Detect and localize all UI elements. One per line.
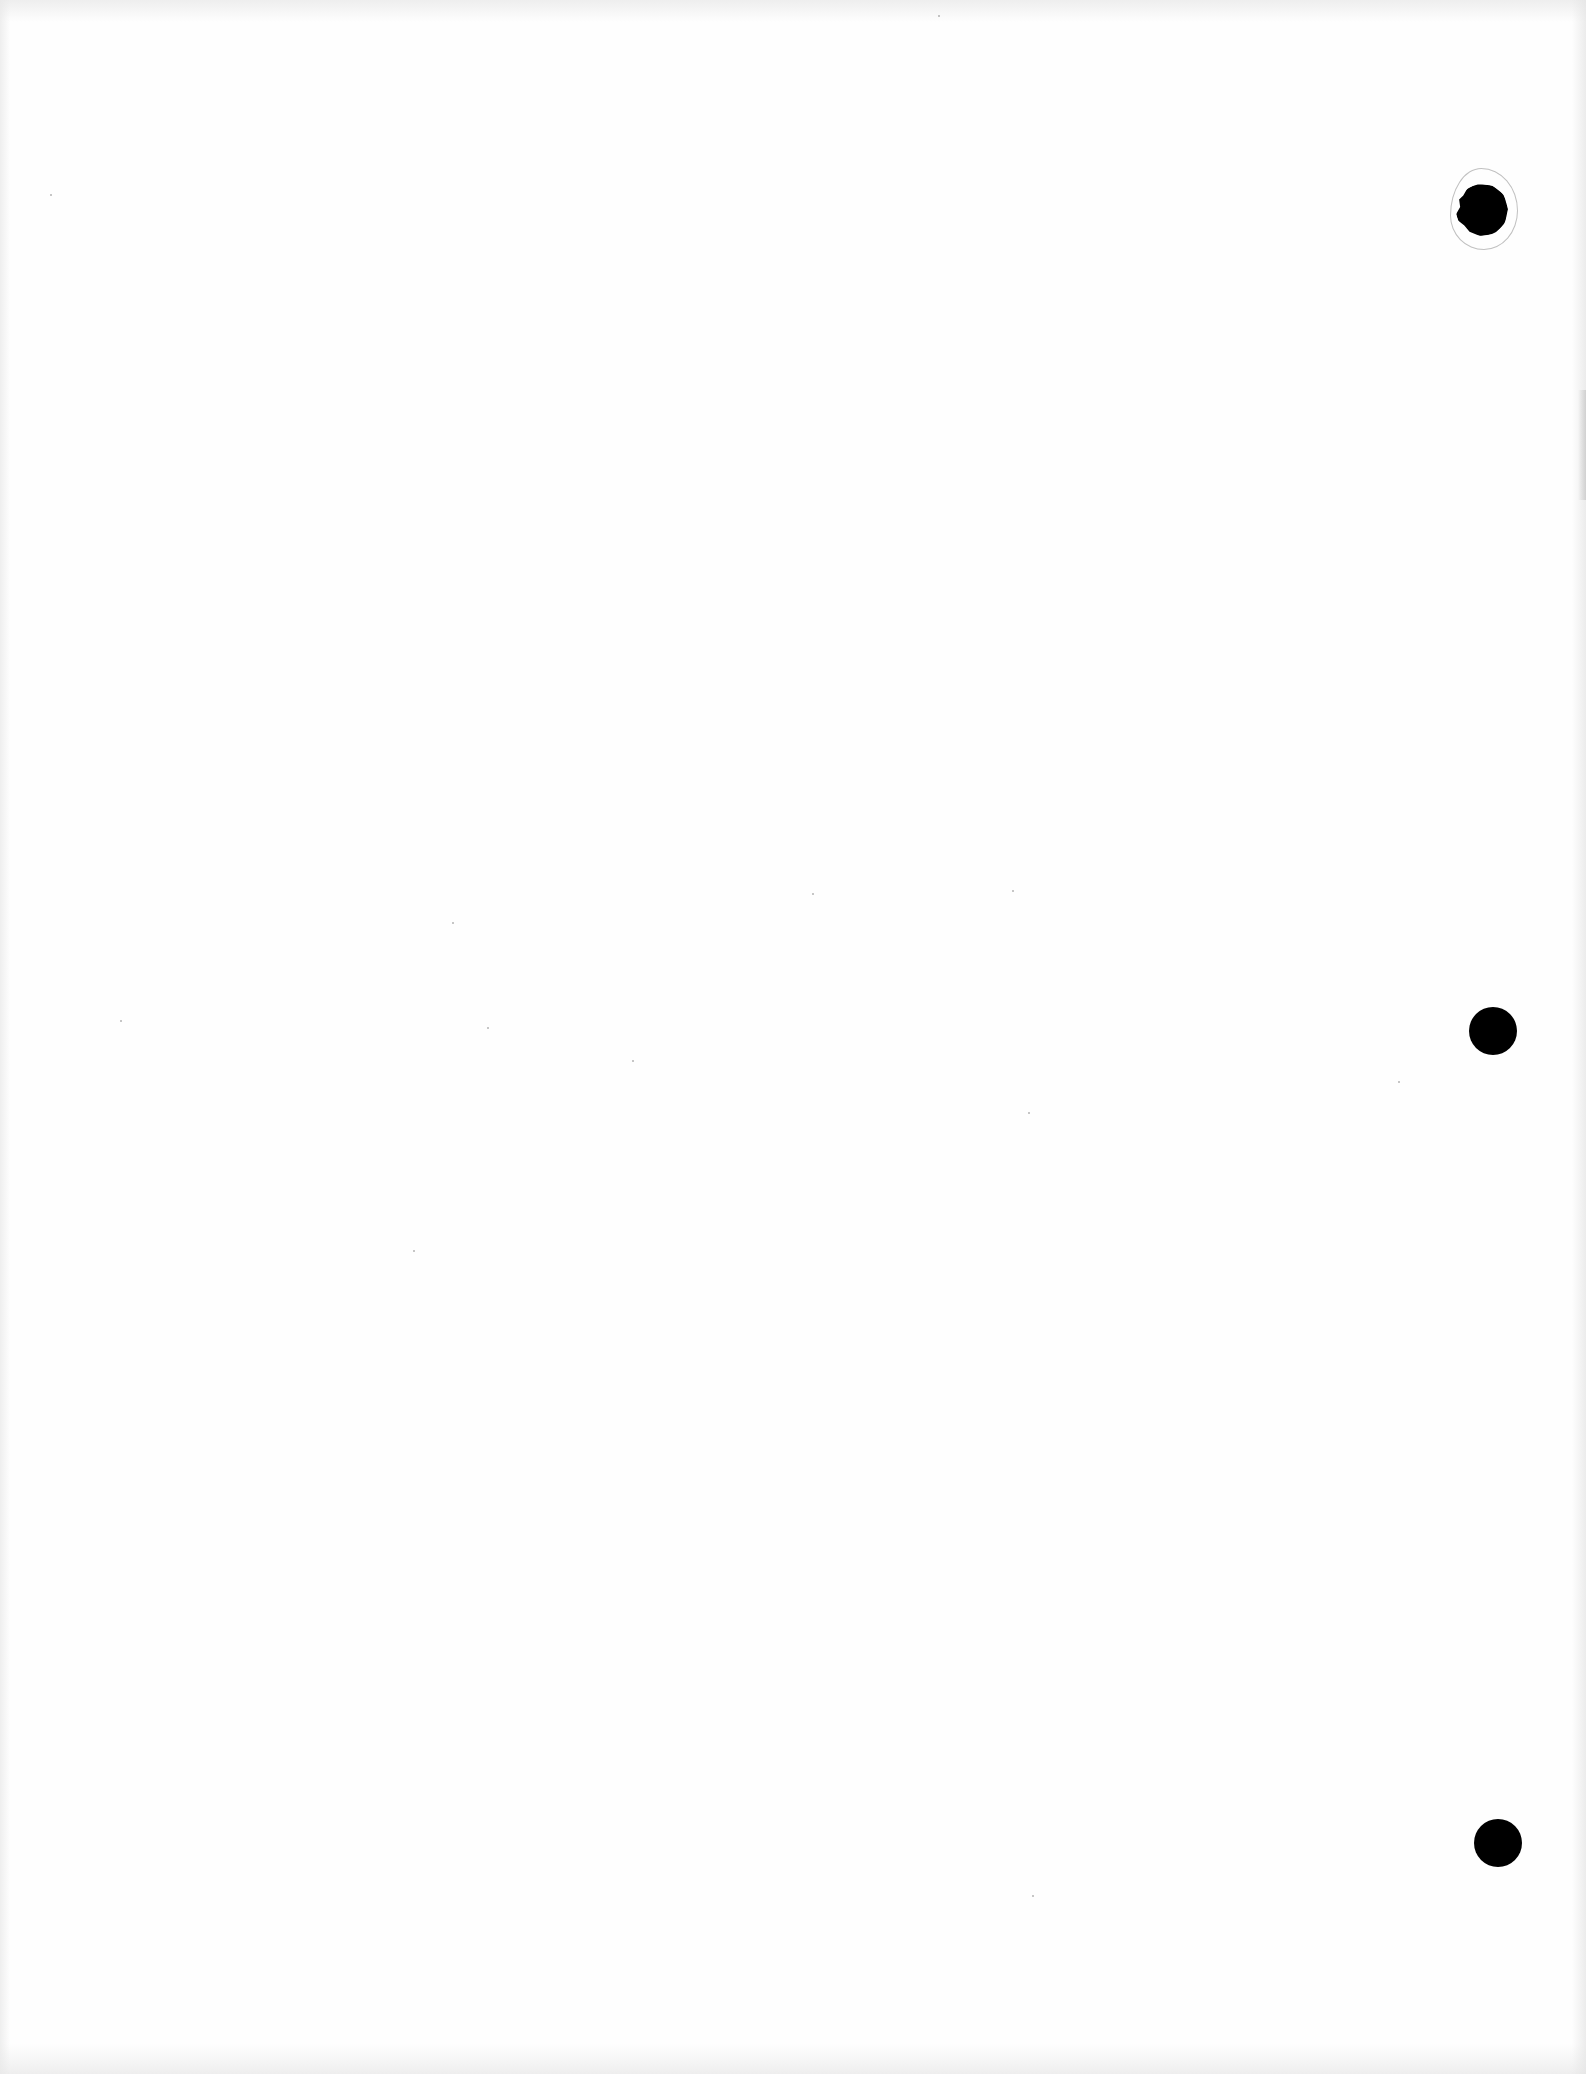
scan-edge-right (1572, 0, 1586, 2074)
scan-speck (1398, 1081, 1400, 1083)
scan-speck (1028, 1112, 1030, 1114)
scan-speck (487, 1027, 489, 1029)
scan-edge-top (0, 0, 1586, 22)
scan-speck (812, 893, 814, 895)
scan-edge-shadow (1578, 390, 1586, 500)
scan-speck (120, 1020, 122, 1022)
middle-hole (1469, 1007, 1517, 1055)
scan-speck (1012, 890, 1014, 892)
scan-speck (452, 922, 454, 924)
scan-edge-bottom (0, 2044, 1586, 2074)
scan-edge-left (0, 0, 10, 2074)
scan-speck (1032, 1895, 1034, 1897)
bottom-hole (1474, 1819, 1522, 1867)
scan-speck (50, 194, 52, 196)
scan-speck (632, 1060, 634, 1062)
blank-page (0, 0, 1586, 2074)
scan-speck (413, 1250, 415, 1252)
scan-speck (938, 15, 940, 17)
